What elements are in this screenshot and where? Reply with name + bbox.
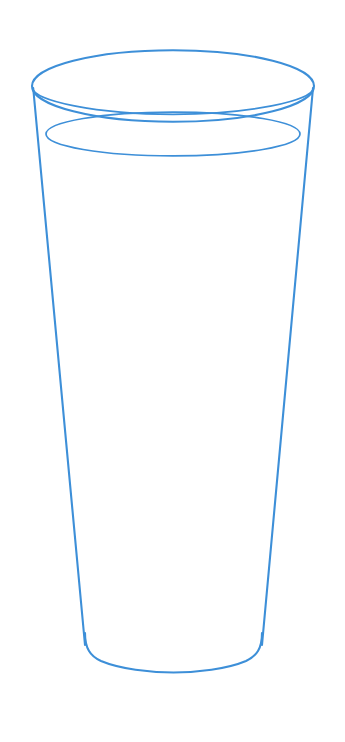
cup-line-drawing: Cup Line Drawing Outline drawing of a ta… bbox=[0, 0, 345, 742]
drawing-canvas: Cup Line Drawing Outline drawing of a ta… bbox=[0, 0, 345, 742]
